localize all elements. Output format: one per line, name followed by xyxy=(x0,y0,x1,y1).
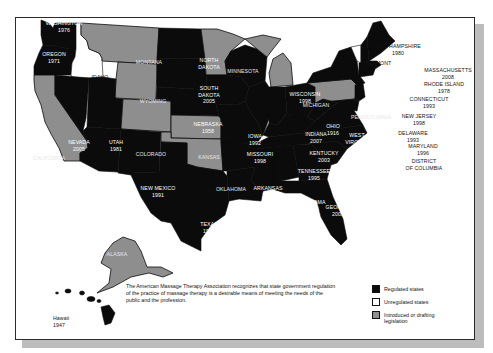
label-arkansas: ARKANSAS1951 xyxy=(253,185,282,198)
label-west-virginia: WESTVIRGINIA xyxy=(345,132,369,145)
label-utah: UTAH1981 xyxy=(109,139,123,152)
legend-item-unregulated: Unregulated states xyxy=(372,298,444,306)
label-oregon: OREGON1971 xyxy=(42,51,66,64)
state-wyoming[interactable] xyxy=(115,62,157,100)
label-new-york: NEW YORK1967 xyxy=(367,91,396,104)
legend-swatch-unregulated xyxy=(372,298,380,306)
label-pennsylvania: PENNSYLVANIA xyxy=(351,114,391,121)
label-alaska: ALASKA xyxy=(107,251,128,258)
label-new-mexico: NEW MEXICO1991 xyxy=(140,185,175,198)
label-missouri: MISSOURI1998 xyxy=(247,151,273,164)
label-massachusetts: MASSACHUSETTS2008 xyxy=(424,67,471,80)
label-georgia: GEORGIA2005 xyxy=(326,204,351,217)
label-maryland: MARYLAND1996 xyxy=(408,143,438,156)
legend-item-introduced: Introduced or drafting legislation xyxy=(372,311,444,325)
label-new-jersey: NEW JERSEY1998 xyxy=(402,113,437,126)
label-minnesota: MINNESOTA xyxy=(227,68,258,75)
label-arizona: ARIZONA2003 xyxy=(93,181,117,194)
state-north-dakota[interactable] xyxy=(157,28,205,59)
label-kansas: KANSAS xyxy=(198,154,220,161)
legend-swatch-regulated xyxy=(372,285,380,293)
label-iowa: IOWA1992 xyxy=(248,133,262,146)
legend-item-regulated: Regulated states xyxy=(372,285,444,293)
label-idaho: IDAHO xyxy=(92,74,109,81)
label-south-dakota: SOUTHDAKOTA2005 xyxy=(198,85,220,105)
label-michigan: MICHIGAN xyxy=(303,102,330,109)
amta-statement: The American Massage Therapy Association… xyxy=(126,283,338,304)
label-ohio: OHIO1916 xyxy=(326,123,340,136)
label-delaware: DELAWARE1993 xyxy=(398,130,428,143)
label-connecticut: CONNECTICUT1993 xyxy=(410,96,449,109)
label-alabama: ALABAMA1996 xyxy=(300,199,325,212)
label-colorado: COLORADO xyxy=(136,151,167,158)
state-new-jersey[interactable] xyxy=(355,83,365,101)
label-oklahoma: OKLAHOMA xyxy=(216,186,246,193)
label-montana: MONTANA xyxy=(136,59,162,66)
label-nebraska: NEBRASKA1958 xyxy=(193,121,222,134)
label-tennessee: TENNESSEE1995 xyxy=(298,168,330,181)
label-north-dakota: NORTHDAKOTA xyxy=(198,57,220,70)
label-kentucky: KENTUCKY2003 xyxy=(309,150,338,163)
label-rhode-island: RHODE ISLAND1978 xyxy=(424,81,464,94)
label-florida: FLORIDA1943 xyxy=(345,245,368,258)
label-nevada: NEVADA2005 xyxy=(68,139,90,152)
label-vermont: VERMONT xyxy=(365,60,392,67)
legend-swatch-introduced xyxy=(372,311,380,319)
label-maine: MAINE1991 xyxy=(423,51,440,64)
label-north-carolina: NORTHCAROLINA1998 xyxy=(361,157,388,177)
label-hawaii: Hawaii1947 xyxy=(53,315,69,328)
label-south-carolina: SOUTHCAROLINA1996 xyxy=(347,181,374,201)
map-legend: Regulated states Unregulated states Intr… xyxy=(372,285,444,330)
map-frame: WASHINGTON1976 OREGON1971 IDAHO MONTANA … xyxy=(15,17,475,340)
label-indiana: INDIANA2007 xyxy=(305,131,327,144)
label-district-of-columbia: DISTRICTOF COLUMBIA xyxy=(406,158,443,171)
label-texas: TEXAS1985 xyxy=(200,221,218,234)
label-california: CALIFORNIA xyxy=(33,155,65,162)
label-washington: WASHINGTON1976 xyxy=(46,20,82,33)
label-wyoming: WYOMING xyxy=(140,98,167,105)
label-new-hampshire: NEW HAMPSHIRE1980 xyxy=(375,43,421,56)
state-connecticut-ri[interactable] xyxy=(359,69,375,77)
